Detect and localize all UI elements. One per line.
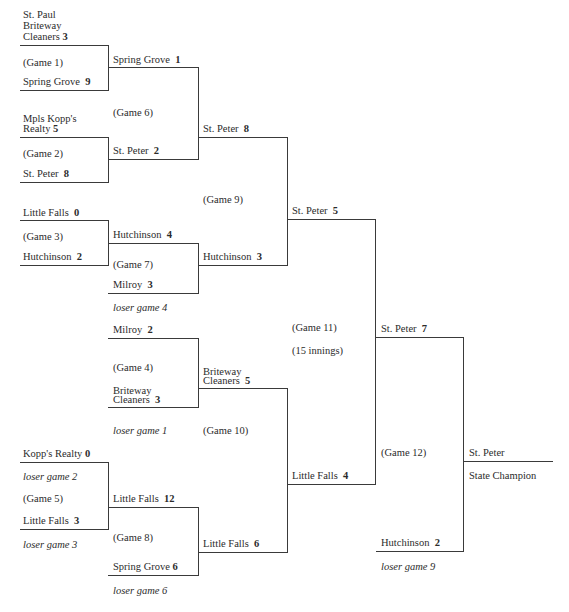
g11-label: (Game 11) — [292, 322, 337, 333]
g2-line-vertical — [108, 137, 109, 183]
team-name: Hutchinson — [381, 537, 429, 548]
g1-line-bottom — [20, 90, 109, 91]
g6-line-vertical — [198, 67, 199, 160]
g1-team-a-line1: St. Paul — [23, 9, 56, 20]
g11-line-top — [287, 219, 376, 220]
g6-team-a: Spring Grove 1 — [113, 54, 180, 65]
team-name: St. Peter — [23, 168, 59, 179]
g10-team-a-line2: Cleaners 5 — [203, 375, 250, 386]
g3-team-b: Hutchinson 2 — [23, 251, 82, 262]
g2-team-b: St. Peter 8 — [23, 168, 69, 179]
score: 0 — [74, 207, 79, 218]
g5-team-a-note: loser game 2 — [23, 471, 77, 482]
g1-team-a-line3: Cleaners 3 — [23, 31, 68, 42]
score: 8 — [64, 168, 69, 179]
g12-line-bottom — [376, 551, 464, 552]
score: 2 — [77, 251, 82, 262]
g4-label: (Game 4) — [113, 362, 153, 373]
g4-team-b-line2: Cleaners 3 — [113, 394, 160, 405]
g2-team-a-line2: Realty 5 — [23, 123, 58, 134]
g1-line-vertical — [108, 45, 109, 91]
score: 2 — [154, 145, 159, 156]
score: 3 — [155, 394, 160, 405]
g12-team-a: St. Peter 7 — [381, 323, 427, 334]
g3-label: (Game 3) — [23, 231, 63, 242]
g6-team-b: St. Peter 2 — [113, 145, 159, 156]
g4-team-a: Milroy 2 — [113, 324, 153, 335]
g4-note: loser game 1 — [113, 425, 167, 436]
score: 4 — [167, 229, 172, 240]
g5-team-a: Kopp's Realty 0 — [23, 448, 90, 459]
score: 6 — [173, 561, 178, 572]
g12-line-top — [375, 337, 464, 338]
g11-line-bottom — [287, 484, 376, 485]
score: 3 — [257, 251, 262, 262]
g2-label: (Game 2) — [23, 148, 63, 159]
g12-note: loser game 9 — [381, 561, 435, 572]
g5-line-vertical — [108, 462, 109, 530]
team-name: Hutchinson — [113, 229, 161, 240]
g10-line-bottom — [198, 552, 288, 553]
score: 0 — [85, 448, 90, 459]
score: 2 — [435, 537, 440, 548]
g7-team-a: Hutchinson 4 — [113, 229, 172, 240]
g9-team-a: St. Peter 8 — [203, 123, 249, 134]
g12-team-b: Hutchinson 2 — [381, 537, 440, 548]
g11-extra: (15 innings) — [292, 345, 343, 356]
g6-line-top — [108, 67, 199, 68]
g11-line-vertical — [375, 219, 376, 485]
score: 3 — [62, 31, 67, 42]
g9-team-b: Hutchinson 3 — [203, 251, 262, 262]
g2-line-top — [20, 137, 109, 138]
g5-line-bottom — [20, 529, 109, 530]
g7-line-bottom — [108, 293, 199, 294]
score: 7 — [422, 323, 427, 334]
g1-team-b: Spring Grove 9 — [23, 76, 90, 87]
g3-line-top — [20, 220, 109, 221]
score: 6 — [254, 538, 259, 549]
champion-title: State Champion — [469, 470, 536, 481]
score: 3 — [74, 515, 79, 526]
score: 5 — [333, 205, 338, 216]
team-name: Cleaners — [23, 31, 60, 42]
g2-line-bottom — [20, 182, 109, 183]
score: 8 — [244, 123, 249, 134]
g8-team-a: Little Falls 12 — [113, 493, 175, 504]
g4-line-vertical — [198, 338, 199, 408]
g7-note: loser game 4 — [113, 302, 167, 313]
team-name: Spring Grove — [23, 76, 80, 87]
g1-label: (Game 1) — [23, 57, 63, 68]
g8-team-b: Spring Grove 6 — [113, 561, 178, 572]
g8-label: (Game 8) — [113, 532, 153, 543]
team-name: Spring Grove — [113, 54, 170, 65]
g5-line-top — [20, 462, 109, 463]
champion-name: St. Peter — [469, 447, 505, 458]
tournament-bracket: St. Paul Briteway Cleaners 3 (Game 1) Sp… — [0, 0, 569, 612]
team-name: Little Falls — [113, 493, 159, 504]
g9-line-top — [198, 137, 288, 138]
score: 5 — [53, 123, 58, 134]
g8-line-bottom — [108, 575, 199, 576]
g10-label: (Game 10) — [203, 425, 248, 436]
g4-line-top — [108, 338, 199, 339]
score: 3 — [147, 279, 152, 290]
score: 1 — [175, 54, 180, 65]
team-name: Cleaners — [203, 375, 240, 386]
team-name: Kopp's Realty — [23, 448, 82, 459]
g11-team-a: St. Peter 5 — [292, 205, 338, 216]
g7-line-vertical — [198, 243, 199, 294]
g10-team-b: Little Falls 6 — [203, 538, 259, 549]
team-name: Hutchinson — [203, 251, 251, 262]
team-name: Milroy — [113, 324, 142, 335]
score: 5 — [245, 375, 250, 386]
team-name: St. Peter — [113, 145, 149, 156]
g10-line-vertical — [287, 388, 288, 553]
score: 2 — [147, 324, 152, 335]
team-name: St. Peter — [203, 123, 239, 134]
g9-label: (Game 9) — [203, 194, 243, 205]
team-name: Realty — [23, 123, 50, 134]
team-name: St. Peter — [381, 323, 417, 334]
champion-line — [463, 461, 553, 462]
score: 4 — [343, 470, 348, 481]
g10-line-top — [198, 388, 288, 389]
